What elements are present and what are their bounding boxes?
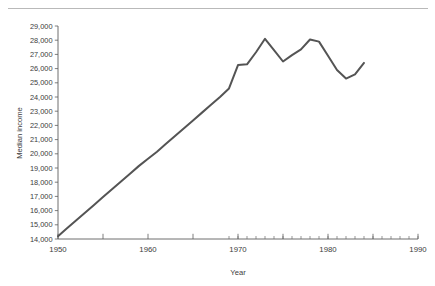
y-tick-label: 29,000 bbox=[30, 22, 53, 31]
x-axis: 19501960197019801990 bbox=[49, 234, 427, 254]
y-tick-label: 26,000 bbox=[30, 64, 53, 73]
line-chart-svg: 14,00015,00016,00017,00018,00019,00020,0… bbox=[0, 0, 435, 286]
y-tick-label: 18,000 bbox=[30, 178, 53, 187]
x-tick-label: 1960 bbox=[139, 245, 157, 254]
y-tick-label: 25,000 bbox=[30, 78, 53, 87]
y-tick-label: 27,000 bbox=[30, 50, 53, 59]
y-tick-label: 17,000 bbox=[30, 192, 53, 201]
x-tick-label: 1950 bbox=[49, 245, 67, 254]
y-axis-title: Median income bbox=[15, 107, 24, 159]
data-line-median-income bbox=[58, 39, 364, 236]
y-tick-label: 20,000 bbox=[30, 149, 53, 158]
y-tick-label: 28,000 bbox=[30, 36, 53, 45]
y-tick-label: 22,000 bbox=[30, 121, 53, 130]
x-axis-title: Year bbox=[230, 268, 246, 277]
y-axis: 14,00015,00016,00017,00018,00019,00020,0… bbox=[30, 22, 58, 244]
x-tick-label: 1990 bbox=[409, 245, 427, 254]
chart-figure: 14,00015,00016,00017,00018,00019,00020,0… bbox=[0, 0, 435, 286]
x-tick-label: 1980 bbox=[319, 245, 337, 254]
y-tick-label: 16,000 bbox=[30, 206, 53, 215]
y-tick-label: 19,000 bbox=[30, 164, 53, 173]
y-tick-label: 21,000 bbox=[30, 135, 53, 144]
y-tick-label: 23,000 bbox=[30, 107, 53, 116]
x-tick-label: 1970 bbox=[229, 245, 247, 254]
y-tick-label: 24,000 bbox=[30, 93, 53, 102]
data-series-group bbox=[58, 39, 364, 236]
y-tick-label: 14,000 bbox=[30, 235, 53, 244]
y-tick-label: 15,000 bbox=[30, 220, 53, 229]
